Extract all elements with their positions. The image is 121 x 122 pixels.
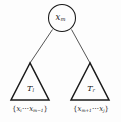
binary-search-tree-figure: xm Tl Tr {xi⋯xm−1} {xm+1⋯xj} (0, 0, 121, 122)
edge-to-left-subtree (30, 30, 53, 64)
left-subtree-label: Tl (0, 85, 61, 93)
left-subtree-triangle (11, 63, 49, 100)
left-set-last-subscript: m−1 (33, 108, 43, 113)
root-node-key-label: xm (0, 13, 121, 23)
right-subtree-set-label: {xm+1⋯xj} (61, 106, 121, 114)
right-set-first-subscript: m+1 (81, 108, 91, 113)
left-subtree-label-subscript: l (32, 87, 34, 93)
edge-to-right-subtree (72, 30, 91, 64)
root-node-key-subscript: m (60, 16, 65, 22)
right-subtree-label-subscript: r (92, 87, 94, 93)
right-subtree-label: Tr (61, 85, 121, 93)
right-subtree-triangle (71, 63, 109, 100)
left-subtree-set-label: {xi⋯xm−1} (0, 106, 60, 114)
left-set-close-brace: } (44, 105, 48, 113)
right-set-close-brace: } (105, 105, 109, 113)
